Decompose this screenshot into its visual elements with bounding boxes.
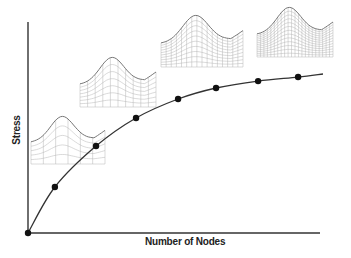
data-point [213,85,219,91]
data-point [52,184,58,190]
stress-convergence-chart [0,0,351,258]
data-point [175,96,181,102]
mesh-insets [31,7,333,164]
data-point-markers [25,74,302,236]
mesh-inset-3 [161,15,243,67]
data-point [133,115,139,121]
mesh-inset-2 [80,57,156,107]
data-point [25,230,31,236]
x-axis-label: Number of Nodes [145,236,225,247]
mesh-inset-1 [31,116,105,164]
data-point [255,78,261,84]
data-point [93,143,99,149]
y-axis-label: Stress [11,115,22,144]
data-point [295,74,301,80]
mesh-inset-4 [257,7,333,57]
